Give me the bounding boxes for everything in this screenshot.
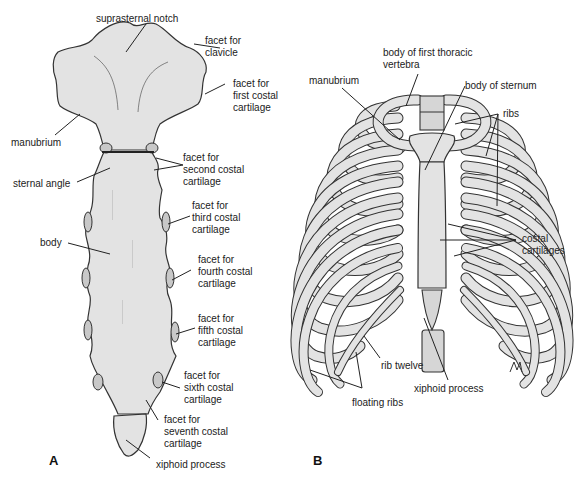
label-floating-ribs: floating ribs xyxy=(352,397,403,409)
label-facet-third-costal: facet for third costal cartilage xyxy=(192,200,240,236)
figure-canvas: suprasternal notch facet for clavicle fa… xyxy=(0,0,578,477)
label-manubrium-a: manubrium xyxy=(11,137,61,149)
label-facet-fifth-costal: facet for fifth costal cartilage xyxy=(198,313,243,349)
label-facet-first-costal: facet for first costal cartilage xyxy=(233,78,278,114)
label-sternal-angle: sternal angle xyxy=(13,178,70,190)
panel-letter-b: B xyxy=(313,453,322,468)
label-facet-seventh-costal: facet for seventh costal cartilage xyxy=(164,414,228,450)
label-body-first-thoracic-vertebra: body of first thoracic vertebra xyxy=(383,47,472,71)
label-body-of-sternum: body of sternum xyxy=(465,80,537,92)
manubrium-shape xyxy=(53,22,206,150)
label-body: body xyxy=(40,237,62,249)
label-facet-fourth-costal: facet for fourth costal cartilage xyxy=(198,254,252,290)
label-suprasternal-notch: suprasternal notch xyxy=(96,13,178,25)
manubrium-b xyxy=(409,133,455,162)
panel-letter-a: A xyxy=(49,453,58,468)
illustration xyxy=(0,0,578,477)
label-xiphoid-process-a: xiphoid process xyxy=(156,459,225,471)
label-xiphoid-process-b: xiphoid process xyxy=(414,383,483,395)
label-ribs: ribs xyxy=(503,108,519,120)
label-facet-clavicle: facet for clavicle xyxy=(205,35,241,59)
sternum-body-b xyxy=(418,162,446,288)
label-facet-sixth-costal: facet for sixth costal cartilage xyxy=(184,370,233,406)
label-rib-twelve: rib twelve xyxy=(381,360,423,372)
lower-vertebra xyxy=(422,330,444,372)
label-costal-cartilages: costal cartilages xyxy=(522,233,565,257)
label-manubrium-b: manubrium xyxy=(309,75,359,87)
xiphoid-b xyxy=(422,290,442,330)
xiphoid-shape xyxy=(114,414,147,456)
label-facet-second-costal: facet for second costal cartilage xyxy=(183,152,244,188)
first-thoracic-vertebra xyxy=(420,96,444,130)
